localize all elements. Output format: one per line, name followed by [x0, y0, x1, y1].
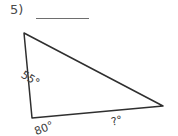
worksheet-problem: 5) 55° 80° ?°: [0, 0, 178, 136]
problem-number-label: 5): [10, 2, 23, 18]
triangle-outline: [24, 33, 163, 118]
answer-blank-line[interactable]: [36, 18, 89, 19]
triangle-figure: 55° 80° ?°: [0, 24, 178, 136]
